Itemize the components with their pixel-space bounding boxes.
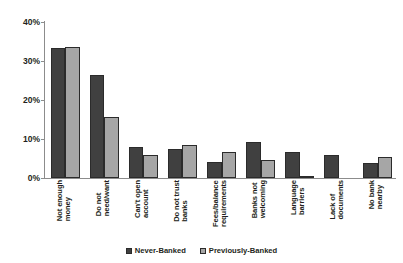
bar-previously-banked: [65, 47, 80, 178]
y-axis-tick-label: 30%: [4, 57, 40, 66]
bar-group: [363, 22, 392, 178]
bar-group: [129, 22, 158, 178]
legend-label: Never-Banked: [135, 246, 186, 255]
x-axis-label-line: nearby: [376, 180, 384, 209]
x-axis-label-line: account: [142, 180, 150, 218]
x-axis-label-line: welcoming: [259, 180, 267, 218]
x-axis-label-line: money: [64, 180, 72, 221]
x-axis-label-line: barriers: [298, 180, 306, 215]
bar-never-banked: [51, 48, 66, 178]
bar-previously-banked: [261, 160, 276, 178]
bar-never-banked: [285, 152, 300, 178]
x-axis-label-line: requirements: [220, 180, 228, 227]
y-axis-tick-label: 20%: [4, 96, 40, 105]
bar-never-banked: [363, 163, 378, 178]
x-axis-line: [44, 178, 396, 179]
bar-never-banked: [90, 75, 105, 178]
bar-group: [168, 22, 197, 178]
bar-previously-banked: [378, 157, 393, 178]
bar-never-banked: [324, 155, 339, 178]
bar-group: [90, 22, 119, 178]
bar-group: [324, 22, 353, 178]
chart-legend: Never-BankedPreviously-Banked: [0, 246, 403, 255]
legend-label: Previously-Banked: [209, 246, 277, 255]
legend-swatch-icon: [200, 248, 206, 254]
legend-item[interactable]: Never-Banked: [126, 246, 186, 255]
bar-previously-banked: [300, 176, 315, 178]
x-axis-category-labels: Not enoughmoneyDo notneed/wantCan't open…: [44, 180, 396, 238]
bar-group: [246, 22, 275, 178]
bar-previously-banked: [182, 145, 197, 178]
bar-never-banked: [168, 149, 183, 178]
bar-chart: 0%10%20%30%40% Not enoughmoneyDo notneed…: [0, 0, 403, 263]
legend-swatch-icon: [126, 248, 132, 254]
x-axis-label-line: banks: [181, 180, 189, 222]
y-axis-tick-label: 40%: [4, 18, 40, 27]
bar-previously-banked: [104, 117, 119, 178]
legend-item[interactable]: Previously-Banked: [200, 246, 277, 255]
bar-previously-banked: [222, 152, 237, 178]
bar-group: [207, 22, 236, 178]
x-axis-label-line: need/want: [103, 180, 111, 216]
bar-never-banked: [129, 147, 144, 178]
bar-never-banked: [246, 142, 261, 178]
y-axis-tick-label: 0%: [4, 174, 40, 183]
y-axis-tick-mark: [41, 178, 44, 179]
bar-never-banked: [207, 162, 222, 178]
bar-previously-banked: [143, 155, 158, 178]
bar-group: [285, 22, 314, 178]
y-axis-tick-label: 10%: [4, 135, 40, 144]
bar-groups: [44, 22, 396, 178]
plot-area: 0%10%20%30%40%: [44, 22, 396, 178]
bar-group: [51, 22, 80, 178]
x-axis-label-line: documents: [337, 180, 345, 220]
